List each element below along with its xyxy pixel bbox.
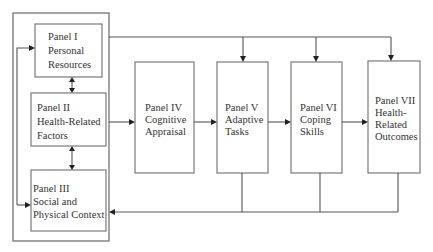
bidirectional-arrow-panel-1-2 xyxy=(69,77,75,93)
panel-4-label: Panel IV Cognitive Appraisal xyxy=(145,102,189,137)
top-connector xyxy=(109,37,394,62)
conceptual-model-diagram: Panel I Personal Resources Panel II Heal… xyxy=(0,0,433,252)
arrow-head-to-panel-3-feedback xyxy=(109,209,115,215)
bidirectional-arrow-panel-2-3 xyxy=(69,146,75,170)
arrow-head-to-panel-7 xyxy=(388,55,394,61)
arrow-panel-5-to-6 xyxy=(268,119,291,125)
arrow-head-to-panel-1 xyxy=(29,45,35,51)
panel-3-box: Panel III Social and Physical Context xyxy=(31,170,106,231)
arrow-panel-4-to-5 xyxy=(194,119,217,125)
panel-6-box: Panel VI Coping Skills xyxy=(291,62,342,173)
panel-7-box: Panel VII Health- Related Outcomes xyxy=(368,61,420,173)
panel-4-box: Panel IV Cognitive Appraisal xyxy=(135,62,194,173)
panel-5-box: Panel V Adaptive Tasks xyxy=(217,62,268,173)
arrow-head-to-panel-5 xyxy=(240,56,246,62)
arrow-head-to-panel-6 xyxy=(313,56,319,62)
arrow-head-to-panel-3 xyxy=(25,202,31,208)
arrow-group-to-panel-4 xyxy=(109,119,135,125)
feedback-connector xyxy=(109,173,398,215)
arrow-panel-6-to-7 xyxy=(342,119,368,125)
panel-1-box: Panel I Personal Resources xyxy=(35,24,102,77)
panel-2-box: Panel II Health-Related Factors xyxy=(31,93,106,146)
